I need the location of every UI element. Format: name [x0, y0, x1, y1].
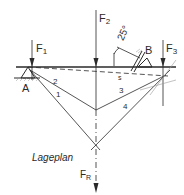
label-b: B — [145, 44, 152, 56]
ray-3 — [96, 75, 166, 110]
label-ray-2: 2 — [53, 77, 58, 86]
label-closing-line: s — [118, 74, 122, 81]
ray-2 — [30, 70, 96, 110]
label-ray-1: 1 — [56, 90, 61, 99]
closing-line-s — [28, 67, 168, 76]
support-a-icon — [21, 67, 35, 78]
label-a: A — [22, 82, 30, 94]
lageplan-diagram: F1 F2 F3 FR A B 25° 2 1 3 4 s Lageplan — [0, 0, 184, 195]
support-b-icon — [138, 58, 152, 67]
label-ray-3: 3 — [119, 86, 124, 95]
label-f3: F3 — [166, 42, 178, 56]
ray-4 — [91, 70, 170, 150]
diagram-title: Lageplan — [32, 152, 74, 163]
label-ray-4: 4 — [123, 102, 128, 111]
label-f2: F2 — [99, 12, 111, 26]
f2-arrow-icon — [94, 58, 99, 67]
angle-ref-line — [117, 47, 140, 58]
label-fr: FR — [80, 169, 91, 181]
f3-arrow-icon — [161, 58, 166, 67]
ray-1 — [30, 70, 100, 150]
f1-arrow-icon — [30, 58, 35, 67]
fr-arrow-icon — [94, 183, 99, 193]
label-f1: F1 — [36, 42, 48, 56]
label-angle: 25° — [115, 24, 131, 42]
angle-arc — [114, 48, 119, 54]
